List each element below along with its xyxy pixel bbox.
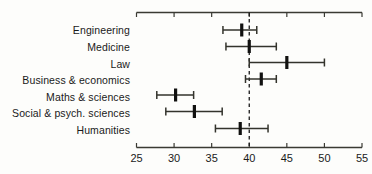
- error-bar-row: [223, 24, 257, 37]
- x-tick-label: 45: [281, 152, 293, 164]
- plot-canvas: [0, 0, 372, 174]
- x-tick-label: 35: [206, 152, 218, 164]
- x-tick-label: 30: [168, 152, 180, 164]
- error-bar-row: [157, 89, 194, 102]
- x-tick-label: 55: [356, 152, 368, 164]
- error-bar-row: [166, 105, 222, 118]
- error-bar-row: [245, 73, 276, 86]
- error-bar-row: [215, 122, 268, 135]
- x-tick-label: 40: [243, 152, 255, 164]
- error-bar-row: [249, 56, 324, 69]
- error-bar-row: [226, 40, 276, 53]
- x-tick-label: 25: [130, 152, 142, 164]
- x-tick-label: 50: [318, 152, 330, 164]
- error-bar-chart: Engineering Medicine Law Business & econ…: [0, 0, 372, 174]
